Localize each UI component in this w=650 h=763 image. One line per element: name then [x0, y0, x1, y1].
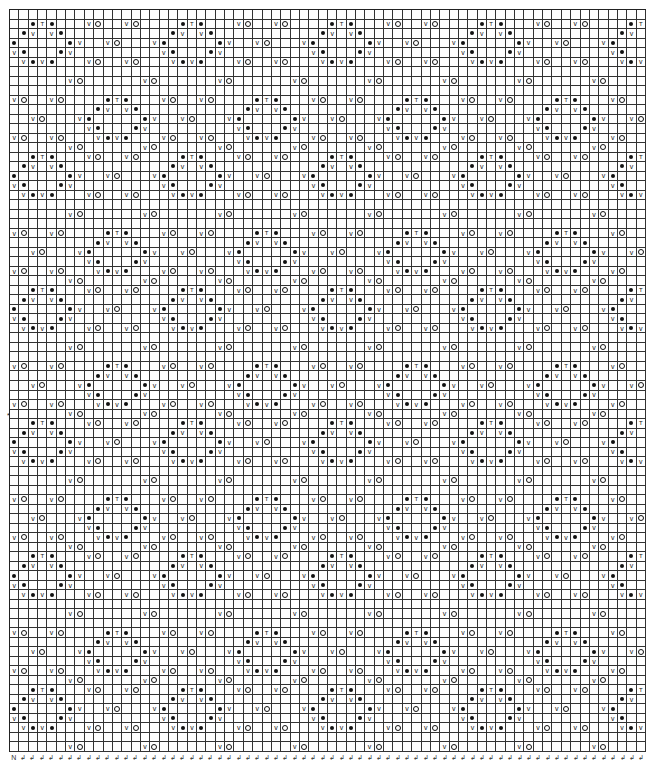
chart-cell — [328, 219, 337, 229]
chart-cell — [319, 248, 328, 258]
chart-cell — [234, 505, 243, 515]
chart-cell — [113, 333, 122, 343]
chart-cell — [515, 486, 524, 496]
filled-dot-icon — [431, 371, 440, 381]
chart-cell — [431, 362, 440, 372]
yarn-over-icon — [206, 96, 215, 106]
slip-stitch-icon: v — [375, 248, 384, 258]
chart-cell — [94, 486, 103, 496]
slip-stitch-icon: v — [104, 438, 113, 448]
chart-cell — [263, 543, 272, 553]
chart-cell — [478, 486, 487, 496]
chart-cell — [496, 371, 505, 381]
chart-cell — [169, 476, 178, 486]
slip-stitch-icon: v — [571, 723, 580, 733]
chart-cell — [534, 200, 543, 210]
slip-stitch-icon: v — [515, 714, 524, 724]
filled-dot-icon — [581, 638, 590, 648]
slip-stitch-icon: v — [347, 533, 356, 543]
chart-cell — [75, 733, 84, 743]
chart-cell — [234, 362, 243, 372]
chart-cell — [356, 210, 365, 220]
chart-cell — [618, 619, 627, 629]
slip-stitch-icon: v — [272, 20, 281, 30]
chart-cell — [29, 628, 38, 638]
yarn-over-icon — [319, 400, 328, 410]
chart-cell — [85, 143, 94, 153]
chart-cell — [66, 352, 75, 362]
chart-cell — [244, 448, 253, 458]
yarn-over-icon — [431, 685, 440, 695]
chart-cell — [468, 257, 477, 267]
chart-cell — [431, 400, 440, 410]
chart-cell — [234, 276, 243, 286]
chart-cell — [440, 314, 449, 324]
slip-stitch-icon: v — [75, 115, 84, 125]
slip-stitch-icon: v — [609, 362, 618, 372]
chart-cell — [85, 39, 94, 49]
chart-cell — [571, 295, 580, 305]
chart-cell — [412, 381, 421, 391]
chart-cell — [590, 362, 599, 372]
chart-cell — [422, 352, 431, 362]
chart-cell — [487, 448, 496, 458]
slip-stitch-icon: v — [291, 676, 300, 686]
slip-stitch-icon: v — [197, 229, 206, 239]
chart-cell — [487, 238, 496, 248]
filled-dot-icon — [609, 39, 618, 49]
slip-stitch-icon: v — [141, 676, 150, 686]
chart-cell — [571, 343, 580, 353]
chart-cell — [431, 704, 440, 714]
chart-cell — [47, 333, 56, 343]
slip-stitch-icon: v — [188, 324, 197, 334]
chart-cell — [328, 638, 337, 648]
chart-cell — [496, 86, 505, 96]
slip-stitch-icon: v — [365, 609, 374, 619]
chart-cell — [515, 552, 524, 562]
decrease-icon: T — [487, 685, 496, 695]
chart-cell — [571, 219, 580, 229]
slip-stitch-icon: v — [141, 276, 150, 286]
filled-dot-icon — [515, 438, 524, 448]
chart-cell — [515, 505, 524, 515]
chart-cell — [328, 48, 337, 58]
chart-cell — [197, 39, 206, 49]
chart-cell — [581, 714, 590, 724]
chart-cell — [225, 619, 234, 629]
chart-cell — [75, 391, 84, 401]
chart-cell — [188, 742, 197, 752]
chart-cell — [281, 467, 290, 477]
chart-cell — [375, 191, 384, 201]
chart-cell — [160, 200, 169, 210]
chart-cell — [319, 39, 328, 49]
chart-cell — [412, 457, 421, 467]
filled-dot-icon — [57, 429, 66, 439]
chart-cell — [272, 48, 281, 58]
chart-cell — [543, 219, 552, 229]
chart-cell — [581, 571, 590, 581]
yarn-over-icon — [188, 381, 197, 391]
filled-dot-icon — [141, 647, 150, 657]
chart-cell — [571, 704, 580, 714]
yarn-over-icon — [393, 58, 402, 68]
slip-stitch-icon: v — [552, 505, 561, 515]
chart-cell — [524, 685, 533, 695]
chart-cell — [38, 305, 47, 315]
chart-cell — [75, 286, 84, 296]
chart-cell — [263, 200, 272, 210]
chart-cell — [534, 619, 543, 629]
chart-cell — [534, 29, 543, 39]
chart-cell — [599, 505, 608, 515]
chart-cell — [281, 438, 290, 448]
chart-cell — [506, 286, 515, 296]
chart-cell — [337, 695, 346, 705]
chart-cell — [66, 381, 75, 391]
slip-stitch-icon: v — [178, 381, 187, 391]
chart-cell — [263, 162, 272, 172]
chart-cell — [263, 391, 272, 401]
chart-cell — [57, 647, 66, 657]
chart-cell — [440, 714, 449, 724]
slip-stitch-icon: v — [234, 20, 243, 30]
chart-cell — [216, 29, 225, 39]
chart-cell — [132, 666, 141, 676]
